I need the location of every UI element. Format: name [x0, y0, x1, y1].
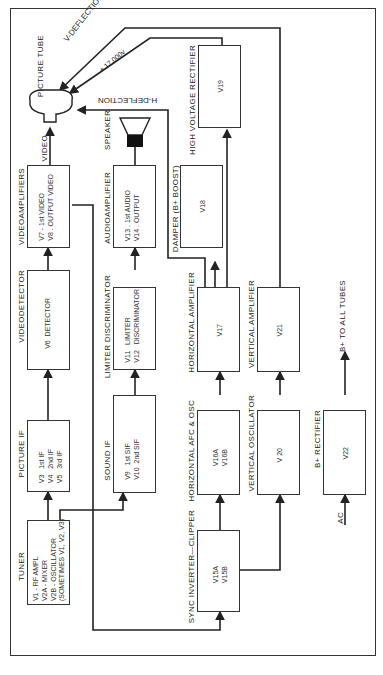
vertical-amplifier-block: V21: [257, 287, 300, 372]
high-voltage-rectifier-label: HIGH VOLTAGE RECTIFIER: [188, 45, 197, 155]
damper-label: DAMPER (B+ BOOST): [171, 165, 180, 252]
sync-inverter-clipper-block: V15A V15B: [197, 530, 240, 612]
high-voltage-rectifier-block: V19: [198, 45, 241, 128]
picture-tube-label: PICTURE TUBE: [36, 35, 45, 97]
speaker-cone-icon: [120, 118, 150, 135]
ac-input-label: AC: [336, 512, 345, 524]
horizontal-afc-osc-block: V16A V16B: [197, 410, 240, 495]
damper-block: V18: [180, 165, 223, 248]
vertical-amplifier-content: V21: [276, 324, 285, 336]
sync-inverter-clipper-content: V15A V15B: [212, 566, 230, 583]
sound-if-label: SOUND IF: [103, 440, 112, 481]
limiter-discriminator-block: V11 LIMITER V12 DISCRIMINATOR: [113, 287, 156, 370]
vertical-oscillator-label: VERTICAL OSCILLATOR: [247, 395, 256, 492]
horizontal-amplifier-block: V17: [197, 287, 240, 372]
vertical-oscillator-content: V 20: [276, 448, 285, 462]
audio-amplifier-block: V13 . 1st AUDIO V14 . OUTPUT: [113, 165, 156, 248]
vertical-oscillator-block: V 20: [257, 410, 300, 495]
horizontal-amplifier-label: HORIZONTAL AMPLIFIER: [187, 272, 196, 373]
video-detector-block: V6 DETECTOR: [27, 270, 70, 370]
video-detector-label: VIDEODETECTOR: [17, 270, 26, 343]
video-signal-label: VIDEO: [40, 135, 49, 161]
damper-content: V18: [199, 200, 208, 212]
video-amplifiers-content: V7 - 1st VIDEO V8 . OUTPUT VIDEO: [38, 174, 56, 241]
speaker-magnet-icon: [127, 135, 143, 147]
b-plus-rectifier-label: B+ RECTIFIER: [313, 410, 322, 468]
audio-amplifier-label: AUDIOAMPLIFIER: [103, 172, 112, 244]
vertical-amplifier-label: VERTICAL AMPLIFIER: [247, 280, 256, 368]
horizontal-afc-osc-content: V16A V16B: [212, 449, 230, 466]
audio-amplifier-content: V13 . 1st AUDIO V14 . OUTPUT: [124, 190, 142, 241]
tuner-content: V1 - RF AMPL V2A - MIXER V2B - OSCILLATO…: [32, 519, 67, 601]
speaker-label: SPEAKER: [103, 110, 112, 150]
horizontal-afc-osc-label: HORIZONTAL AFC & OSC: [187, 400, 196, 502]
b-plus-to-all-tubes-label: B+ TO ALL TUBES: [338, 280, 347, 352]
sound-if-block: V9 1st SIF V10 2nd SIF: [113, 395, 156, 493]
video-amplifiers-label: VIDEOAMPLIFIERS: [17, 168, 26, 245]
tuner-label: TUNER: [17, 552, 26, 581]
limiter-discriminator-label: LIMITER DISCRIMINATOR: [103, 275, 112, 378]
limiter-discriminator-content: V11 LIMITER V12 DISCRIMINATOR: [124, 289, 142, 363]
picture-if-label: PICTURE IF: [17, 430, 26, 477]
tuner-block: V1 - RF AMPL V2A - MIXER V2B - OSCILLATO…: [27, 520, 70, 605]
high-voltage-rectifier-content: V19: [217, 80, 226, 92]
h-deflection-label: H-DEFLECTION: [98, 96, 157, 105]
video-detector-content: V6 DETECTOR: [44, 298, 53, 349]
horizontal-amplifier-content: V17: [216, 324, 225, 336]
b-plus-rectifier-block: V22: [323, 410, 366, 495]
b-plus-rectifier-content: V22: [342, 447, 351, 459]
video-amplifiers-block: V7 - 1st VIDEO V8 . OUTPUT VIDEO: [27, 165, 70, 248]
picture-if-block: V3 1st IF V4 2nd IF V5 3rd IF: [27, 420, 70, 492]
sound-if-content: V9 1st SIF V10 2nd SIF: [124, 439, 142, 480]
sync-inverter-clipper-label: SYNC INVERTER—CLIPPER: [187, 510, 196, 623]
picture-if-content: V3 1st IF V4 2nd IF V5 3rd IF: [38, 449, 64, 483]
